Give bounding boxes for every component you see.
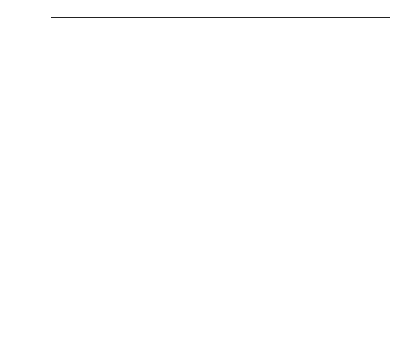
baseline-line [51,17,390,18]
